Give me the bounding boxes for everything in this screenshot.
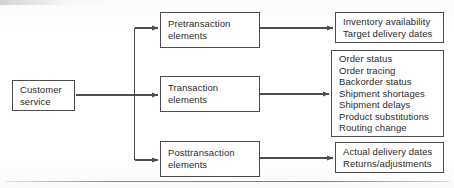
figure-bottom-rule xyxy=(6,181,449,182)
list-item: Shipment delays xyxy=(339,99,443,111)
node-customer-service-line-1: Customer xyxy=(20,84,74,96)
list-item: Inventory availability xyxy=(343,16,443,28)
node-transaction-line-2: elements xyxy=(168,94,259,106)
node-pretransaction-line-2: elements xyxy=(168,30,259,42)
scan-smudge xyxy=(0,0,120,5)
list-pretransaction-items: Inventory availability Target delivery d… xyxy=(335,12,444,43)
node-posttransaction-line-2: elements xyxy=(168,159,259,171)
list-posttransaction-items: Actual delivery dates Returns/adjustment… xyxy=(335,142,444,173)
node-posttransaction-elements: Posttransaction elements xyxy=(160,141,260,177)
list-item: Routing change xyxy=(339,122,443,134)
node-pretransaction-line-1: Pretransaction xyxy=(168,18,259,30)
node-posttransaction-line-1: Posttransaction xyxy=(168,147,259,159)
list-item: Actual delivery dates xyxy=(343,146,443,158)
list-item: Product substitutions xyxy=(339,111,443,123)
node-customer-service: Customer service xyxy=(12,80,75,111)
figure-canvas: Customer service Pretransaction elements… xyxy=(0,0,454,188)
node-transaction-elements: Transaction elements xyxy=(160,76,260,112)
list-item: Order tracing xyxy=(339,65,443,77)
node-customer-service-line-2: service xyxy=(20,96,74,108)
list-item: Order status xyxy=(339,53,443,65)
node-transaction-line-1: Transaction xyxy=(168,82,259,94)
list-item: Target delivery dates xyxy=(343,28,443,40)
list-transaction-items: Order status Order tracing Backorder sta… xyxy=(331,50,444,137)
list-item: Returns/adjustments xyxy=(343,158,443,170)
list-item: Backorder status xyxy=(339,76,443,88)
list-item: Shipment shortages xyxy=(339,88,443,100)
node-pretransaction-elements: Pretransaction elements xyxy=(160,12,260,48)
